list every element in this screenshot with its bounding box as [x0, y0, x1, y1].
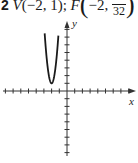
- y-axis-label: y: [71, 17, 77, 29]
- parabola-curve: [45, 33, 59, 83]
- x-axis-label: x: [128, 95, 134, 107]
- axes: [3, 21, 136, 156]
- graph: x y: [0, 0, 138, 163]
